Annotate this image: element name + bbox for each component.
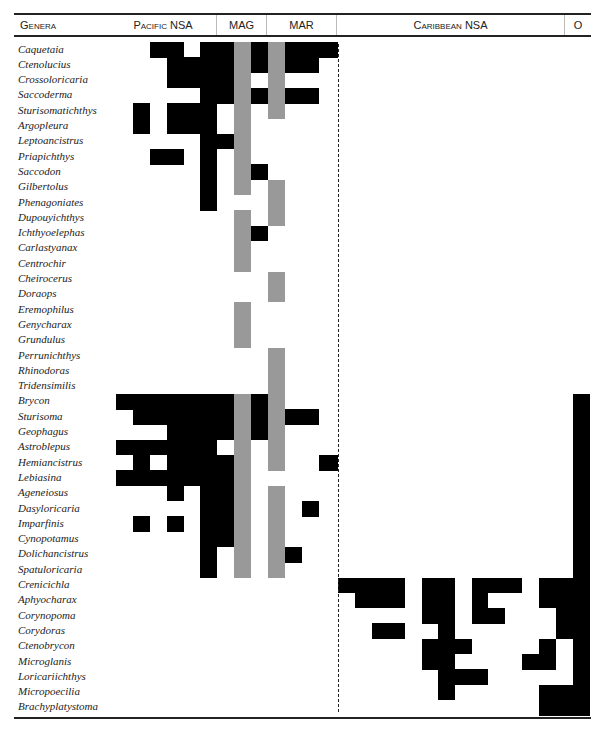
presence-cell xyxy=(505,578,522,594)
presence-cell xyxy=(285,409,302,425)
header-mar-label: MAR xyxy=(289,19,313,31)
presence-cell xyxy=(556,623,573,639)
genus-label: Carlastyanax xyxy=(18,240,77,255)
shared-cell xyxy=(268,547,285,563)
presence-cell xyxy=(302,409,319,425)
shared-cell xyxy=(268,455,285,471)
presence-cell xyxy=(573,608,590,624)
header-bottom-rule xyxy=(14,35,591,37)
presence-cell xyxy=(573,409,590,425)
header-genera: Genera xyxy=(16,15,110,35)
presence-cell xyxy=(133,394,150,410)
presence-cell xyxy=(167,470,184,486)
shared-cell xyxy=(234,455,251,471)
genus-label: Geophagus xyxy=(18,424,68,439)
divider-dashed-line xyxy=(338,44,339,712)
presence-cell xyxy=(167,440,184,456)
shared-cell xyxy=(234,409,251,425)
presence-cell xyxy=(167,516,184,532)
presence-cell xyxy=(539,578,556,594)
presence-cell xyxy=(116,470,133,486)
presence-cell xyxy=(184,119,200,135)
shared-cell xyxy=(268,103,285,119)
presence-cell xyxy=(522,654,539,670)
presence-cell xyxy=(200,103,217,119)
presence-cell xyxy=(302,501,319,517)
presence-cell xyxy=(472,578,488,594)
presence-cell xyxy=(184,394,200,410)
presence-cell xyxy=(472,608,488,624)
genus-label: Crossoloricaria xyxy=(18,72,88,87)
header-mag: MAG xyxy=(217,15,267,35)
genus-label: Aphyocharax xyxy=(18,592,77,607)
presence-cell xyxy=(573,394,590,410)
shared-cell xyxy=(268,363,285,379)
presence-cell xyxy=(200,134,217,150)
presence-cell xyxy=(251,409,268,425)
presence-cell xyxy=(200,440,217,456)
presence-cell xyxy=(539,593,556,609)
presence-cell xyxy=(422,578,438,594)
genus-label: Gilbertolus xyxy=(18,179,68,194)
shared-cell xyxy=(268,57,285,73)
presence-cell xyxy=(200,180,217,196)
presence-cell xyxy=(200,119,217,135)
presence-cell xyxy=(167,119,184,135)
presence-cell xyxy=(438,669,455,685)
presence-cell xyxy=(438,578,455,594)
genus-label: Dupouyichthys xyxy=(18,210,84,225)
shared-cell xyxy=(234,532,251,548)
presence-cell xyxy=(556,608,573,624)
shared-cell xyxy=(268,379,285,395)
genus-label: Ctenobrycon xyxy=(18,638,75,653)
presence-cell xyxy=(472,593,488,609)
presence-cell xyxy=(150,149,167,165)
presence-cell xyxy=(133,409,150,425)
presence-cell xyxy=(167,425,184,441)
presence-cell xyxy=(167,486,184,502)
presence-cell xyxy=(539,654,556,670)
presence-cell xyxy=(251,226,268,242)
presence-cell xyxy=(167,149,184,165)
presence-cell xyxy=(573,623,590,639)
presence-cell xyxy=(116,440,133,456)
genus-label: Sturisoma xyxy=(18,409,63,424)
shared-cell xyxy=(268,425,285,441)
presence-cell xyxy=(319,455,338,471)
shared-cell xyxy=(234,164,251,180)
presence-cell xyxy=(133,119,150,135)
presence-cell xyxy=(573,425,590,441)
presence-cell xyxy=(285,42,302,58)
presence-cell xyxy=(200,532,217,548)
genus-label: Corydoras xyxy=(18,623,65,638)
shared-cell xyxy=(234,333,251,349)
presence-cell xyxy=(573,685,590,701)
presence-cell xyxy=(200,501,217,517)
presence-cell xyxy=(184,440,200,456)
presence-cell xyxy=(372,623,388,639)
presence-cell xyxy=(200,409,217,425)
presence-cell xyxy=(438,608,455,624)
presence-cell xyxy=(150,470,167,486)
shared-cell xyxy=(234,516,251,532)
presence-cell xyxy=(438,593,455,609)
presence-cell xyxy=(355,593,372,609)
presence-cell xyxy=(302,57,319,73)
presence-cell xyxy=(285,57,302,73)
shared-cell xyxy=(268,88,285,104)
presence-cell xyxy=(133,470,150,486)
presence-cell xyxy=(167,73,184,89)
presence-cell xyxy=(133,440,150,456)
shared-cell xyxy=(234,57,251,73)
shared-cell xyxy=(268,486,285,502)
genus-label: Dasyloricaria xyxy=(18,501,80,516)
header-o-label: O xyxy=(574,19,583,31)
presence-cell xyxy=(573,654,590,670)
genus-label: Rhinodoras xyxy=(18,363,69,378)
genus-label: Corynopoma xyxy=(18,608,75,623)
presence-cell xyxy=(200,547,217,563)
presence-cell xyxy=(372,578,388,594)
shared-cell xyxy=(268,348,285,364)
presence-cell xyxy=(556,685,573,701)
shared-cell xyxy=(234,547,251,563)
